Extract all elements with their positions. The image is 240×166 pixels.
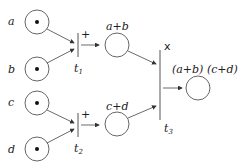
token-d — [35, 147, 39, 151]
op-t1: + — [81, 28, 90, 41]
place-output — [186, 76, 210, 100]
place-c-plus-d — [105, 112, 129, 136]
label-c-plus-d: c+d — [106, 100, 128, 113]
label-b: b — [8, 63, 15, 76]
label-a: a — [8, 15, 15, 28]
place-a-plus-b — [105, 33, 129, 57]
label-c: c — [8, 96, 14, 109]
petri-net-diagram: a b c d a+b c+d (a+b) (c+d) + + x t1 t2 … — [0, 0, 240, 166]
token-a — [35, 20, 39, 24]
label-output: (a+b) (c+d) — [172, 63, 238, 76]
label-a-plus-b: a+b — [106, 20, 129, 33]
label-t3: t3 — [164, 122, 173, 136]
op-t3: x — [164, 40, 171, 53]
label-t1: t1 — [74, 62, 83, 76]
token-c — [35, 101, 39, 105]
op-t2: + — [81, 108, 90, 121]
token-b — [35, 67, 39, 71]
label-d: d — [8, 143, 15, 156]
label-t2: t2 — [74, 142, 83, 156]
